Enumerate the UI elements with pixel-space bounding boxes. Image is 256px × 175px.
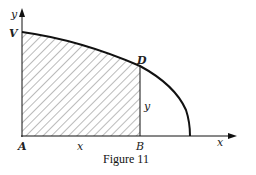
y-axis-arrow-icon (19, 8, 25, 17)
point-a-label: A (17, 140, 27, 153)
hatched-region (22, 32, 140, 136)
y-axis-label: y (10, 8, 18, 21)
x-axis-arrow-icon (228, 133, 237, 139)
segment-bd-label: y (143, 100, 151, 113)
x-axis-label: x (217, 136, 224, 149)
segment-ab-label: x (77, 140, 84, 153)
figure-diagram: y V D y A x B x Figure 11 (0, 0, 256, 175)
point-v-label: V (9, 27, 19, 40)
figure-caption: Figure 11 (103, 152, 149, 166)
point-d-label: D (136, 54, 147, 67)
